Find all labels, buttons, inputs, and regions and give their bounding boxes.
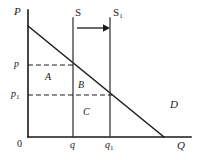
region-c-label: C [83,107,90,117]
chart-canvas [0,0,198,160]
y-axis-label: P [14,6,21,17]
region-a-label: A [45,72,51,82]
supply-shifted-curve-label: S1 [113,7,123,18]
quantity-high-label: q1 [105,140,114,150]
region-b-label: B [78,80,84,90]
price-low-label-sub: 1 [16,93,20,101]
supply-demand-diagram: P Q 0 S S1 D p p1 q q1 A B C [0,0,198,160]
price-label: p [14,59,19,69]
shift-arrow-icon [77,24,110,32]
demand-curve-label: D [170,99,178,110]
x-axis-label: Q [177,140,185,151]
supply-curve-label: S [75,7,81,18]
quantity-high-label-sub: 1 [110,144,114,152]
origin-label: 0 [17,139,22,149]
quantity-label: q [70,140,75,150]
price-low-label: p1 [11,89,20,99]
supply-shifted-curve-label-sub: 1 [119,12,123,20]
